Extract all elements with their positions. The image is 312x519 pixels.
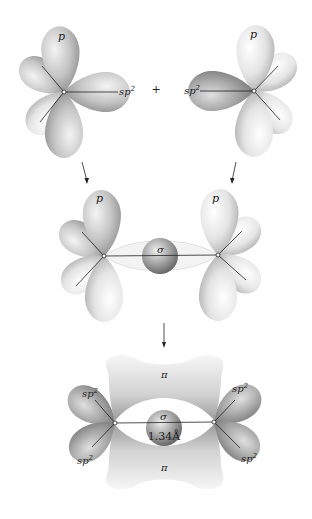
carbon-nucleus bbox=[62, 90, 66, 94]
carbon-nucleus bbox=[252, 89, 256, 93]
sp2-label-lower-right: sp2 bbox=[241, 452, 258, 464]
bond-length-label: 1.34Å bbox=[148, 429, 181, 443]
orbital-diagram: p sp2 + p sp2 bbox=[0, 0, 312, 519]
p-label-left: p bbox=[96, 192, 103, 205]
stage1-right-atom: p sp2 bbox=[184, 24, 304, 157]
carbon-nucleus bbox=[113, 421, 117, 425]
sigma-label: σ bbox=[160, 411, 168, 422]
stage2-bonding: p p σ bbox=[52, 188, 268, 322]
arrow-center-down bbox=[162, 323, 166, 348]
sp2-label-lower-left: sp2 bbox=[77, 454, 94, 466]
arrow-left-down bbox=[82, 162, 89, 184]
p-label: p bbox=[58, 30, 65, 43]
pi-label-top: π bbox=[160, 369, 168, 380]
stage3-double-bond: π π σ 1.34Å sp2 sp2 sp2 sp2 bbox=[61, 355, 269, 489]
carbon-nucleus bbox=[102, 254, 106, 258]
plus-sign: + bbox=[151, 83, 160, 96]
p-label: p bbox=[250, 28, 257, 41]
sp2-label: sp2 bbox=[119, 85, 136, 97]
carbon-nucleus bbox=[216, 253, 220, 257]
sigma-label: σ bbox=[157, 244, 165, 255]
carbon-nucleus bbox=[212, 420, 216, 424]
pi-label-bottom: π bbox=[160, 462, 168, 473]
stage1-left-atom: p sp2 bbox=[12, 25, 135, 158]
arrow-right-down bbox=[230, 162, 236, 184]
p-label-right: p bbox=[212, 192, 219, 205]
